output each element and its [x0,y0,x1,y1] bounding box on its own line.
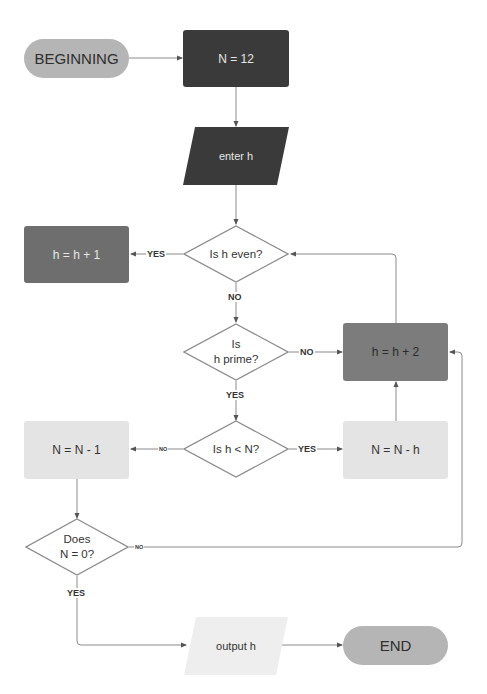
edge-label-prime-no: NO [299,347,315,357]
end-terminal[interactable]: END [343,626,448,665]
edge-label-zero-no: NO [134,544,144,550]
is-h-even-decision[interactable]: Is h even? [183,225,289,283]
h-plus-1-label: h = h + 1 [53,248,100,262]
n-init-process[interactable]: N = 12 [183,30,289,87]
n-minus-1-process[interactable]: N = N - 1 [24,421,129,479]
is-h-prime-decision[interactable]: Is h prime? [183,323,289,381]
beginning-terminal[interactable]: BEGINNING [24,39,129,78]
end-label: END [380,637,412,654]
n-minus-h-process[interactable]: N = N - h [343,421,448,479]
n-minus-h-label: N = N - h [371,443,419,457]
n-minus-1-label: N = N - 1 [52,443,100,457]
edge-label-less-no: NO [158,446,168,452]
edge-label-even-yes: YES [146,249,166,259]
beginning-label: BEGINNING [34,50,118,67]
is-h-prime-label: Is h prime? [214,337,259,367]
output-h-output[interactable]: output h [184,617,288,675]
is-h-less-than-n-decision[interactable]: Is h < N? [183,420,289,478]
edge-label-prime-yes: YES [225,390,245,400]
n-init-label: N = 12 [218,52,254,66]
edge-label-zero-yes: YES [66,588,86,598]
output-h-label: output h [216,640,256,652]
h-plus-2-process[interactable]: h = h + 2 [343,323,448,381]
does-n-equal-zero-label: Does N = 0? [60,532,94,562]
h-plus-1-process[interactable]: h = h + 1 [24,226,129,283]
h-plus-2-label: h = h + 2 [372,345,419,359]
edge-label-less-yes: YES [297,444,317,454]
enter-h-input[interactable]: enter h [183,127,289,185]
is-h-even-label: Is h even? [209,247,262,262]
enter-h-label: enter h [219,150,253,162]
does-n-equal-zero-decision[interactable]: Does N = 0? [25,518,129,576]
is-h-less-than-n-label: Is h < N? [213,442,259,457]
edge-label-even-no: NO [227,292,243,302]
